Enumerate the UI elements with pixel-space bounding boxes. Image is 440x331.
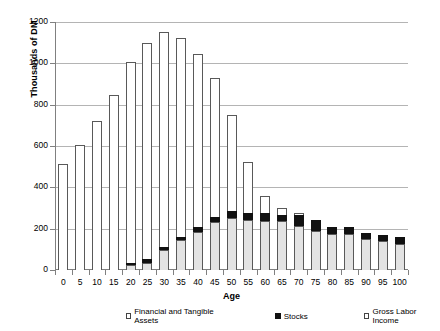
bar-segment-gross-labor-income [193,54,203,227]
y-axis-tick-label: 1200 [14,17,48,25]
bar-segment-gross-labor-income [75,145,85,270]
x-axis-tick-label: 5 [72,277,89,289]
x-axis-tick [105,270,106,275]
x-axis-tick-label: 80 [324,277,341,289]
x-axis-tick [122,270,123,275]
bar-segment-financial-and-tangible-assets [176,240,186,270]
stacked-bar[interactable] [159,32,169,270]
bar-segment-stocks [311,220,321,231]
bar-segment-gross-labor-income [142,43,152,260]
bar-segment-financial-and-tangible-assets [210,222,220,270]
y-axis-tick [50,22,55,23]
legend-swatch-icon [364,313,369,319]
x-axis-tick [274,270,275,275]
legend-item-gross-labor-income: Gross Labor Income [364,307,430,325]
bar-segment-financial-and-tangible-assets [227,218,237,270]
bar-slot [341,22,358,270]
y-axis-tick-label: 600 [14,141,48,149]
bar-segment-financial-and-tangible-assets [327,234,337,270]
x-axis-tick-label: 0 [55,277,72,289]
y-axis-tick-label: 200 [14,224,48,232]
x-axis-tick-label: 20 [122,277,139,289]
stacked-bar[interactable] [92,121,102,270]
bar-slot [324,22,341,270]
x-axis-tick [55,270,56,275]
x-axis-tick [189,270,190,275]
bar-slot [55,22,72,270]
bar-slot [190,22,207,270]
bar-slot [105,22,122,270]
bar-segment-gross-labor-income [109,95,119,270]
x-axis-tick-label: 25 [139,277,156,289]
stacked-bar[interactable] [395,237,405,270]
x-axis-tick-label: 50 [223,277,240,289]
bar-slot [173,22,190,270]
x-axis-title: Age [55,291,408,301]
bar-segment-stocks [327,227,337,235]
x-axis-labels: 0510152025303540455055606570758085909510… [55,277,408,289]
stacked-bar[interactable] [193,54,203,270]
x-axis-tick [408,270,409,275]
y-axis-tick [50,146,55,147]
y-axis-tick-label: 0 [14,265,48,273]
bar-segment-financial-and-tangible-assets [193,232,203,270]
bar-segment-gross-labor-income [227,115,237,211]
stacked-bar[interactable] [327,227,337,270]
bar-slot [307,22,324,270]
stacked-bar[interactable] [227,115,237,270]
bar-segment-stocks [344,227,354,234]
bar-segment-gross-labor-income [260,196,270,213]
x-axis-tick-label: 85 [341,277,358,289]
bar-slot [358,22,375,270]
stacked-bar[interactable] [294,213,304,270]
bar-segment-financial-and-tangible-assets [344,234,354,270]
x-axis-tick-label: 90 [358,277,375,289]
stacked-bar[interactable] [361,233,371,270]
x-axis-tick [240,270,241,275]
bar-segment-financial-and-tangible-assets [361,239,371,270]
y-axis-tick-label: 800 [14,100,48,108]
bar-segment-stocks [395,237,405,244]
bar-segment-gross-labor-income [277,208,287,215]
stacked-bar[interactable] [344,227,354,270]
bar-slot [89,22,106,270]
stacked-bar[interactable] [142,43,152,270]
bar-segment-gross-labor-income [243,162,253,213]
stacked-bar[interactable] [378,235,388,270]
x-axis-tick [290,270,291,275]
stacked-bar[interactable] [126,62,136,270]
bar-segment-stocks [260,213,270,221]
bar-segment-stocks [227,211,237,218]
stacked-bar[interactable] [311,220,321,270]
bar-slot [391,22,408,270]
stacked-bar[interactable] [58,164,68,270]
stacked-bar[interactable] [277,208,287,270]
bar-segment-gross-labor-income [159,32,169,247]
x-axis-tick [358,270,359,275]
x-axis-tick [156,270,157,275]
y-axis-tick [50,105,55,106]
legend-label: Stocks [284,312,308,321]
stacked-bar[interactable] [75,145,85,270]
stacked-bar[interactable] [260,196,270,270]
plot-area [55,22,408,270]
bar-segment-gross-labor-income [210,78,220,216]
x-axis-tick [341,270,342,275]
legend-item-stocks: Stocks [275,312,308,321]
stacked-bar[interactable] [109,95,119,270]
stacked-bar[interactable] [210,78,220,270]
x-axis-tick-label: 70 [290,277,307,289]
bar-slot [122,22,139,270]
bar-segment-financial-and-tangible-assets [294,226,304,270]
y-axis-tick [50,229,55,230]
bar-segment-financial-and-tangible-assets [142,263,152,270]
bar-slot [156,22,173,270]
x-axis-tick-label: 10 [89,277,106,289]
x-axis-tick-label: 60 [257,277,274,289]
x-axis-tick-label: 35 [173,277,190,289]
stacked-bar[interactable] [176,38,186,270]
legend-swatch-icon [275,313,281,319]
x-axis-tick [139,270,140,275]
stacked-bar[interactable] [243,162,253,270]
y-axis-tick-label: 400 [14,182,48,190]
